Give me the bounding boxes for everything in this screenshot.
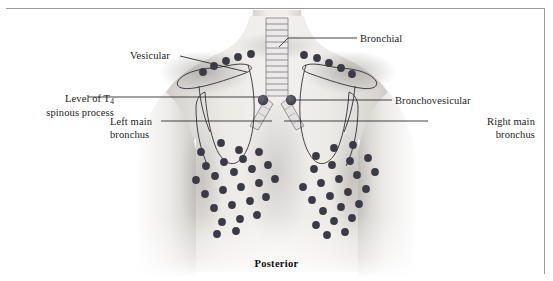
label-vesicular: Vesicular: [130, 50, 170, 63]
label-posterior: Posterior: [0, 258, 553, 269]
label-t4-line1: Level of T: [65, 93, 110, 104]
label-bronchial: Bronchial: [360, 33, 402, 46]
label-left-main-line2: bronchus: [110, 129, 149, 140]
label-right-main-bronchus: Right main bronchus: [430, 116, 535, 141]
label-right-main-line2: bronchus: [496, 129, 535, 140]
label-right-main-line1: Right main: [487, 116, 535, 127]
label-left-main-bronchus: Left main bronchus: [110, 116, 152, 141]
label-t4-spinous-process: Level of T4 spinous process: [28, 93, 114, 119]
label-t4-subscript: 4: [110, 97, 114, 106]
dot-carina-right: [286, 95, 296, 105]
label-t4-line2: spinous process: [46, 107, 114, 118]
label-bronchovesicular: Bronchovesicular: [395, 95, 471, 108]
label-left-main-line1: Left main: [110, 116, 152, 127]
anatomy-figure: Vesicular Bronchial Level of T4 spinous …: [0, 0, 553, 281]
dot-carina-left: [258, 95, 268, 105]
